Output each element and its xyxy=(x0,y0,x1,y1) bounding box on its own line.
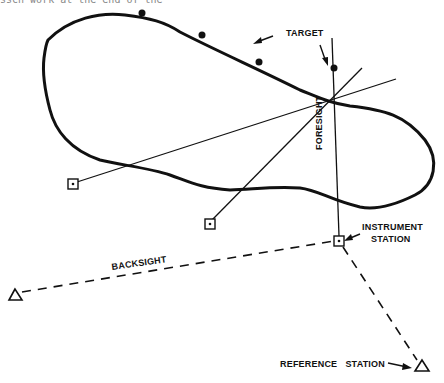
target-label: TARGET xyxy=(286,28,324,38)
target-arrow-icon xyxy=(253,36,273,44)
instrument-station-label-line2: STATION xyxy=(371,234,411,244)
sight-line-b xyxy=(212,68,362,220)
target-area-outline xyxy=(43,14,433,208)
foresight-label: FORESIGHT xyxy=(314,96,324,150)
reference-arrow-icon xyxy=(388,363,412,370)
backsight-triangle-marker xyxy=(9,289,22,300)
observation-dot xyxy=(139,10,146,17)
instrument-station-marker xyxy=(334,236,344,246)
observation-dot xyxy=(256,59,263,66)
reference-station-label: REFERENCE STATION xyxy=(280,359,385,369)
instrument-arrow-icon xyxy=(344,234,360,241)
reference-triangle-marker xyxy=(415,360,429,371)
instrument-station-label-line1: INSTRUMENT xyxy=(362,222,423,232)
sight-line-a xyxy=(77,79,396,182)
backsight-line xyxy=(22,241,334,292)
survey-diagram xyxy=(0,0,444,383)
target-down-arrow-icon xyxy=(320,45,328,66)
reference-line xyxy=(343,247,417,360)
station-a-marker xyxy=(68,179,78,189)
target-point-dot xyxy=(331,65,338,72)
observation-dot xyxy=(199,32,206,39)
station-b-marker xyxy=(205,219,215,229)
